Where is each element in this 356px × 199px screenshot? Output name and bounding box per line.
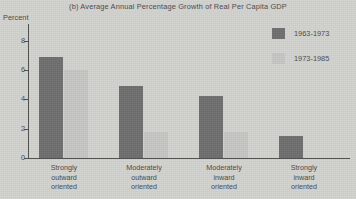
bar-group [199,24,249,158]
y-axis-tick-label: 8 [21,36,25,46]
bar-chart-figure: (b) Average Annual Percentage Growth of … [0,0,356,199]
legend-item: 1973-1985 [272,53,356,64]
legend-color-swatch [272,28,285,39]
bar-group [39,24,89,158]
y-axis-label: Percent [3,13,28,22]
category-label-line: inward [275,173,333,183]
category-label-line: inward [195,173,253,183]
legend-label: 1963-1973 [294,29,329,38]
category-label-line: Strongly [275,163,333,173]
chart-title: (b) Average Annual Percentage Growth of … [0,2,356,11]
bar [224,132,248,158]
category-label-line: Moderately [195,163,253,173]
x-axis-category-label: Moderatelyinwardoriented [195,163,253,192]
x-axis-category-labels: StronglyoutwardorientedModeratelyoutward… [29,163,351,197]
bar [64,70,88,158]
bar [39,57,63,158]
category-label-line: Strongly [35,163,93,173]
legend-label: 1973-1985 [294,54,329,63]
category-label-line: oriented [195,182,253,192]
category-label-line: oriented [275,182,333,192]
y-axis-tick: 0 [28,158,32,159]
y-axis-tick-label: 2 [21,124,25,134]
x-axis-category-label: Stronglyoutwardoriented [35,163,93,192]
legend-color-swatch [272,53,285,64]
chart-legend: 1963-19731973-1985 [272,28,356,78]
category-label-line: oriented [115,182,173,192]
x-axis-line [28,158,350,159]
y-axis-tick-label: 0 [21,153,25,163]
category-label-line: outward [115,173,173,183]
y-axis-tick-label: 6 [21,65,25,75]
bar [119,86,143,158]
y-axis-tick-label: 4 [21,94,25,104]
bar [199,96,223,158]
category-label-line: Moderately [115,163,173,173]
bar [144,132,168,158]
legend-item: 1963-1973 [272,28,356,39]
category-label-line: oriented [35,182,93,192]
category-label-line: outward [35,173,93,183]
bar-group [119,24,169,158]
x-axis-category-label: Moderatelyoutwardoriented [115,163,173,192]
x-axis-category-label: Stronglyinwardoriented [275,163,333,192]
bar [279,136,303,158]
